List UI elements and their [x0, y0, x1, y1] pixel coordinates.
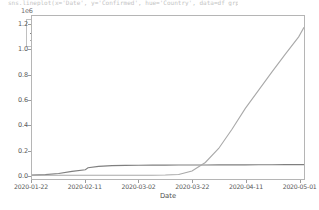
x-tick-mark — [192, 180, 193, 183]
x-tick-label: 2020-05-01 — [268, 183, 319, 190]
chart-screenshot: sns.lineplot(x='Date', y='Confirmed', hu… — [0, 0, 319, 210]
x-tick-mark — [138, 180, 139, 183]
x-axis-title: Date — [31, 192, 305, 200]
x-tick-mark — [246, 180, 247, 183]
x-tick-mark — [31, 180, 32, 183]
x-axis: 2020-01-222020-02-112020-03-022020-03-22… — [0, 0, 319, 210]
x-tick-mark — [85, 180, 86, 183]
x-tick-mark — [300, 180, 301, 183]
